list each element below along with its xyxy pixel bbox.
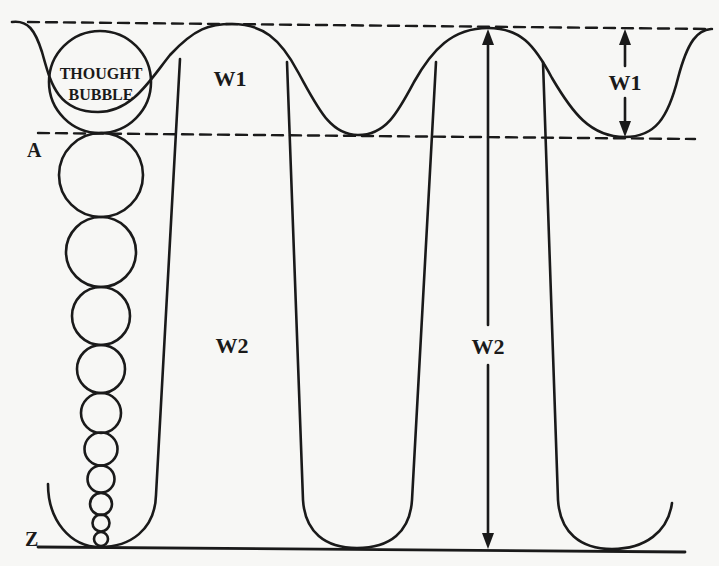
w2-label-right: W2 <box>472 334 505 359</box>
chain-circle-7 <box>88 466 115 493</box>
chain-circle-2 <box>66 217 136 287</box>
top-dashed-line <box>28 22 712 29</box>
bubble-label-line2: BUBBLE <box>69 86 134 103</box>
w1-label-left: W1 <box>214 66 247 91</box>
w1-arrow-head-up-icon <box>619 29 631 45</box>
diagram-canvas: THOUGHT BUBBLE A Z W1 W1 W2 W2 <box>0 0 719 566</box>
w1-label-right: W1 <box>609 70 642 95</box>
thought-bubble <box>49 31 151 133</box>
chain-circle-9 <box>93 515 110 532</box>
chain-circle-6 <box>85 433 118 466</box>
chain-circle-3 <box>72 287 130 345</box>
w2-arrow-head-up-icon <box>482 29 494 45</box>
w1-arrow-head-down-icon <box>619 121 631 137</box>
chain-circle-4 <box>77 345 125 393</box>
w2-label-left: W2 <box>216 333 249 358</box>
chain-circle-1 <box>59 133 143 217</box>
level-a-label: A <box>27 139 42 161</box>
bubble-label-line1: THOUGHT <box>60 65 143 82</box>
chain-circle-8 <box>90 493 112 515</box>
chain-circle-5 <box>81 393 121 433</box>
chain-circle-10 <box>94 532 108 546</box>
level-z-label: Z <box>25 528 38 550</box>
thought-wave-diagram: THOUGHT BUBBLE A Z W1 W1 W2 W2 <box>0 0 719 566</box>
w2-arrow-head-down-icon <box>482 533 494 549</box>
